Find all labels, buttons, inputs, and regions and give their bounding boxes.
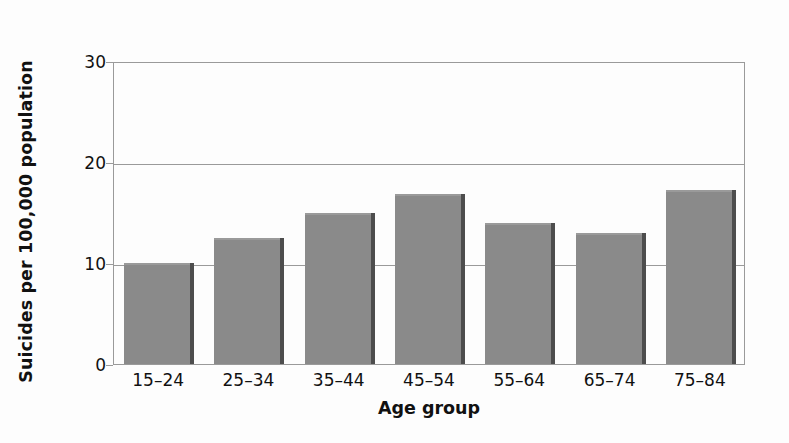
x-tick-label: 25–34 (223, 370, 275, 390)
bars-group (114, 63, 744, 364)
y-tick-mark (106, 163, 113, 164)
y-tick-mark (106, 62, 113, 63)
x-axis-title: Age group (113, 398, 745, 418)
x-tick-label: 35–44 (313, 370, 365, 390)
plot-area (113, 62, 745, 365)
x-tick-label: 55–64 (493, 370, 545, 390)
bar-chart-figure: Suicides per 100,000 population 0102030 … (0, 0, 789, 443)
y-tick-label: 10 (62, 254, 106, 274)
y-axis-ticks: 0102030 (55, 62, 106, 365)
x-axis-ticks: 15–2425–3435–4445–5455–6465–7475–84 (113, 370, 745, 398)
x-tick-label: 15–24 (132, 370, 184, 390)
x-tick-label: 65–74 (584, 370, 636, 390)
x-tick-label: 75–84 (674, 370, 726, 390)
bar (214, 238, 284, 364)
bar (305, 213, 375, 365)
y-tick-label: 0 (62, 355, 106, 375)
y-tick-mark (106, 365, 113, 366)
bar (395, 194, 465, 364)
y-tick-label: 30 (62, 52, 106, 72)
bar (124, 263, 194, 364)
bar (666, 190, 736, 364)
x-tick-label: 45–54 (403, 370, 455, 390)
y-tick-mark (106, 264, 113, 265)
bar (576, 233, 646, 364)
y-tick-label: 20 (62, 153, 106, 173)
bar (485, 223, 555, 364)
